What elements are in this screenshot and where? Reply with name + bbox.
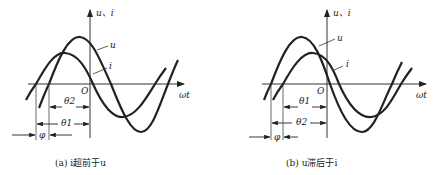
- origin-label: O: [317, 87, 324, 96]
- theta-upper-label: θ1: [299, 97, 310, 106]
- theta-lower-label: θ2: [296, 118, 307, 127]
- u-curve-label: u: [110, 41, 116, 50]
- caption-a: (a) i超前于u: [55, 159, 106, 168]
- panel-b: u、i ωt O u i θ1 θ2 φ (b) u滞后于i: [216, 0, 433, 175]
- panel-a: u、i ωt O u i θ2 θ1 φ (a) i超前于u: [0, 0, 216, 175]
- caption-b: (b) u滞后于i: [286, 159, 337, 168]
- y-axis-label: u、i: [333, 9, 351, 18]
- phi-label: φ: [274, 133, 280, 142]
- i-curve-label: i: [109, 62, 112, 71]
- origin-label: O: [81, 87, 88, 96]
- i-curve-label: i: [346, 60, 349, 69]
- phi-label: φ: [39, 131, 45, 140]
- u-curve-label: u: [337, 34, 343, 43]
- phase-diagram-b: [216, 0, 433, 175]
- x-axis-label: ωt: [179, 91, 190, 100]
- x-axis-label: ωt: [416, 91, 427, 100]
- theta-lower-label: θ1: [61, 119, 72, 128]
- phase-diagram-a: [0, 0, 216, 175]
- theta-upper-label: θ2: [64, 97, 75, 106]
- i-curve: [26, 53, 166, 117]
- y-axis-label: u、i: [96, 9, 114, 18]
